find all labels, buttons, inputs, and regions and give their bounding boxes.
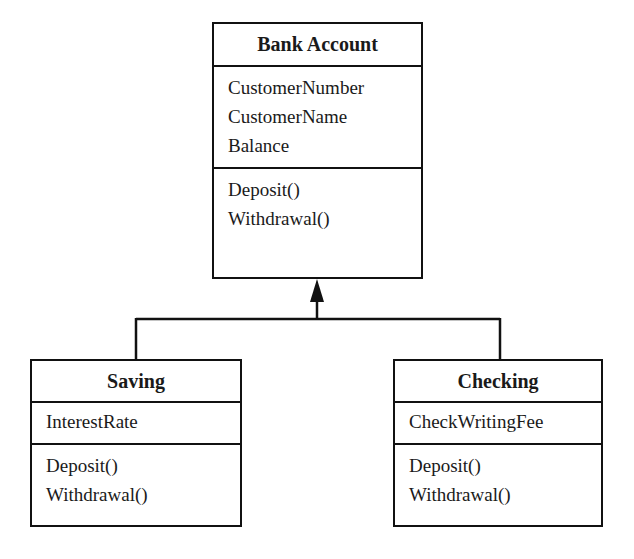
class-attributes: CustomerNumber CustomerName Balance <box>214 67 421 169</box>
class-saving: Saving InterestRate Deposit() Withdrawal… <box>30 359 242 527</box>
operation: Deposit() <box>46 451 240 480</box>
class-attributes: CheckWritingFee <box>395 403 601 445</box>
class-attributes: InterestRate <box>32 403 240 445</box>
operation: Deposit() <box>228 175 421 204</box>
attribute: InterestRate <box>46 407 240 436</box>
attribute: Balance <box>228 131 421 160</box>
class-name: Saving <box>32 361 240 403</box>
operation: Withdrawal() <box>409 480 601 509</box>
class-name: Checking <box>395 361 601 403</box>
attribute: CustomerNumber <box>228 73 421 102</box>
operation: Deposit() <box>409 451 601 480</box>
class-operations: Deposit() Withdrawal() <box>214 169 421 233</box>
operation: Withdrawal() <box>46 480 240 509</box>
generalization-arrow-icon <box>310 279 324 302</box>
attribute: CheckWritingFee <box>409 407 601 436</box>
class-bank-account: Bank Account CustomerNumber CustomerName… <box>212 22 423 279</box>
class-operations: Deposit() Withdrawal() <box>395 445 601 509</box>
class-name: Bank Account <box>214 24 421 67</box>
class-operations: Deposit() Withdrawal() <box>32 445 240 509</box>
class-checking: Checking CheckWritingFee Deposit() Withd… <box>393 359 603 527</box>
operation: Withdrawal() <box>228 204 421 233</box>
attribute: CustomerName <box>228 102 421 131</box>
